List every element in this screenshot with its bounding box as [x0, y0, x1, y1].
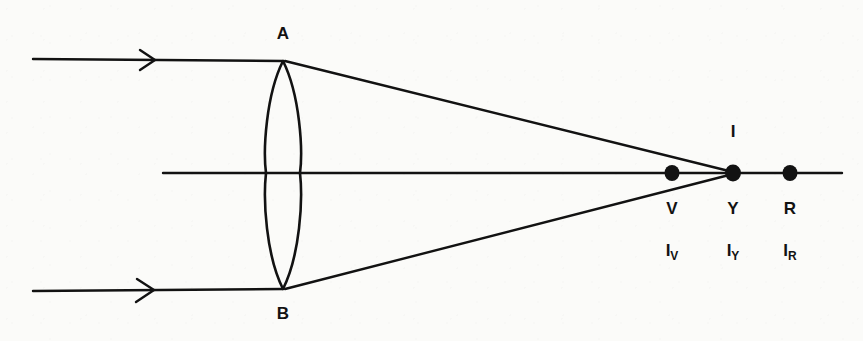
image-label-yellow-subscript: Y	[731, 249, 739, 263]
focal-point-label-yellow: Y	[727, 200, 738, 217]
lens-bottom-vertex-label: B	[277, 305, 289, 322]
focal-point-dot-red	[783, 165, 798, 181]
focal-point-dot-yellow	[725, 165, 741, 182]
lower-refracted-ray-line	[285, 174, 733, 289]
lens-top-vertex-label: A	[277, 25, 289, 42]
upper-incident-ray-line	[33, 59, 283, 61]
optics-diagram: A B I V IV Y IY R IR	[0, 0, 863, 341]
image-label-violet: IV	[666, 242, 679, 259]
image-label-red: IR	[783, 242, 796, 259]
optics-ray-diagram-svg	[0, 0, 863, 341]
focal-point-label-red: R	[784, 200, 796, 217]
focus-marker-label: I	[731, 123, 736, 140]
image-label-violet-subscript: V	[670, 249, 678, 263]
biconvex-lens-shape	[265, 61, 301, 289]
lower-incident-ray-line	[33, 289, 283, 291]
focal-point-label-violet: V	[666, 200, 677, 217]
image-label-yellow: IY	[727, 242, 740, 259]
image-label-red-subscript: R	[788, 249, 797, 263]
upper-refracted-ray-line	[285, 61, 733, 172]
focal-point-dot-violet	[665, 165, 680, 181]
